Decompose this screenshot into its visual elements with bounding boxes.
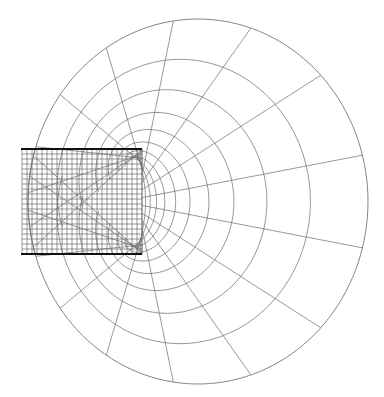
mesh-ring [118,142,190,261]
mesh-spoke [142,205,362,247]
mesh-spoke [28,210,142,249]
mesh-spoke [142,155,362,197]
mesh-ring [108,129,209,273]
mesh-spoke [106,234,142,355]
fine-grid [22,149,142,254]
mesh-spoke [106,48,142,169]
mesh-spoke [60,95,142,163]
outer-boundary-arc [28,19,368,384]
mesh-spoke [142,28,251,182]
radial-mesh [28,21,362,382]
outer-boundary [28,19,368,384]
mesh-diagram [0,0,384,397]
mesh-ring [57,59,310,343]
mesh-ring [138,153,151,250]
mesh-spoke [60,240,142,308]
mesh-spoke [142,221,251,375]
